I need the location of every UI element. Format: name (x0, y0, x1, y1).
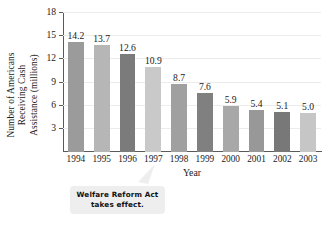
x-axis-tick-label: 1999 (192, 153, 218, 166)
y-axis-title-line-2: Receiving Cash (17, 65, 28, 126)
bar-value-label: 13.7 (93, 33, 110, 44)
bar-value-label: 7.6 (199, 81, 211, 92)
callout-line-2: takes effect. (91, 200, 144, 210)
y-axis-tick-label: 9 (39, 75, 56, 89)
y-axis-tick-label: 3 (39, 121, 56, 135)
x-axis-title: Year (63, 166, 321, 179)
y-axis-tick-label: 6 (39, 98, 56, 112)
welfare-reform-callout: Welfare Reform Act takes effect. (70, 186, 165, 214)
bar: 14.2 (68, 42, 84, 152)
bars-layer: 14.213.712.610.98.77.65.95.45.15.0 (63, 12, 321, 152)
bar-value-label: 14.2 (67, 30, 84, 41)
bar: 5.0 (300, 113, 316, 152)
x-axis-tick-label: 2002 (269, 153, 295, 166)
bar: 13.7 (94, 45, 110, 152)
y-axis-title: Number of Americans Receiving Cash Assis… (0, 25, 46, 165)
bar: 5.9 (223, 106, 239, 152)
y-axis-tick-label: 15 (39, 28, 56, 42)
bar-value-label: 5.1 (276, 100, 288, 111)
y-axis-tick-label: 18 (39, 5, 56, 19)
x-axis-tick-label: 1998 (166, 153, 192, 166)
bar-value-label: 5.9 (225, 94, 237, 105)
x-axis-tick-label: 2001 (244, 153, 270, 166)
bar: 8.7 (171, 84, 187, 152)
bar-value-label: 10.9 (145, 55, 162, 66)
bar-value-label: 5.0 (302, 101, 314, 112)
bar: 5.1 (274, 112, 290, 152)
bar: 7.6 (197, 93, 213, 152)
bar: 10.9 (145, 67, 161, 152)
x-axis-tick-label: 1995 (89, 153, 115, 166)
x-axis-tick-label: 2003 (295, 153, 321, 166)
bar: 12.6 (120, 54, 136, 152)
callout-line-1: Welfare Reform Act (77, 190, 159, 200)
x-axis-tick-label: 2000 (218, 153, 244, 166)
bar-value-label: 8.7 (173, 72, 185, 83)
x-axis-tick-label: 1994 (63, 153, 89, 166)
y-axis-tick-label: 12 (39, 51, 56, 65)
x-axis-tick-labels: 1994199519961997199819992000200120022003 (63, 153, 321, 167)
y-axis-title-line-1: Number of Americans (6, 52, 17, 137)
bar-value-label: 12.6 (119, 42, 136, 53)
bar-chart-figure: Number of Americans Receiving Cash Assis… (0, 0, 333, 226)
bar: 5.4 (249, 110, 265, 152)
bar-value-label: 5.4 (250, 98, 262, 109)
